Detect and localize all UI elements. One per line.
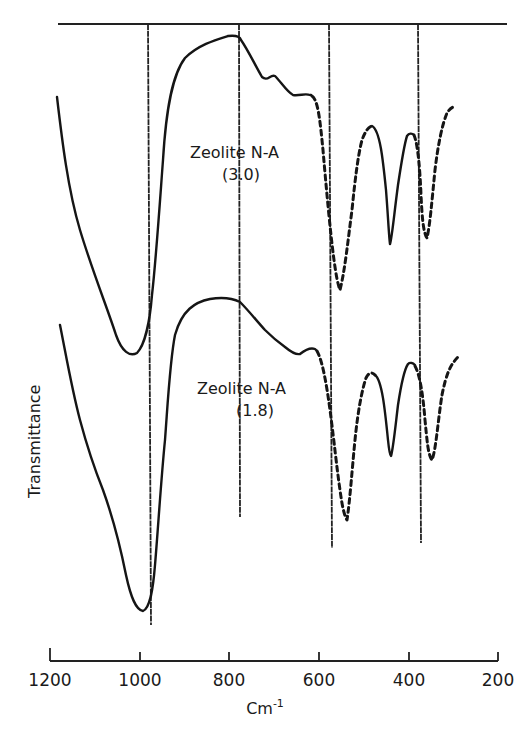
reference-line-385 (418, 24, 421, 543)
x-tick-label-800: 800 (213, 670, 245, 690)
series-label-3-0-name: Zeolite N-A (190, 143, 279, 162)
curve-3-0-dashed-b (414, 106, 456, 238)
series-label-1-8-name: Zeolite N-A (197, 379, 286, 398)
series-label-3-0-value: (3.0) (222, 165, 260, 184)
reference-line-790 (239, 24, 240, 517)
x-tick-label-1000: 1000 (118, 670, 161, 690)
x-axis-label-base: Cm (246, 699, 273, 718)
x-tick-label-600: 600 (303, 670, 335, 690)
series-zeolite-3-0 (57, 36, 456, 355)
x-axis-label-superscript: -1 (273, 697, 284, 710)
reference-line-590 (329, 24, 332, 548)
x-tick-label-200: 200 (482, 670, 514, 690)
x-axis: 1200 1000 800 600 400 200 Cm-1 (28, 648, 514, 718)
ir-spectrum-chart: Zeolite N-A (3.0) Zeolite N-A (1.8) Tran… (0, 0, 532, 735)
x-tick-label-1200: 1200 (28, 670, 71, 690)
x-axis-label: Cm-1 (246, 697, 284, 718)
curve-1-8-dashed-b (415, 357, 458, 460)
series-label-1-8-value: (1.8) (236, 401, 274, 420)
curve-1-8-dashed-a (317, 351, 375, 520)
curve-3-0-solid (57, 36, 311, 355)
curve-3-0-dashed-a (312, 96, 372, 290)
y-axis-label: Transmittance (25, 385, 44, 499)
x-tick-label-400: 400 (393, 670, 425, 690)
curve-1-8-solid (60, 298, 316, 611)
curve-3-0-solid-b (372, 126, 414, 244)
reference-lines (148, 24, 421, 625)
curve-1-8-solid-b (375, 363, 415, 456)
